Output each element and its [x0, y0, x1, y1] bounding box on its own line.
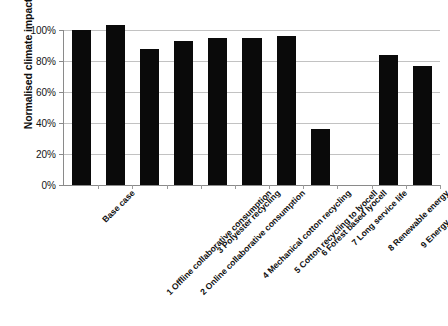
bar-slot [98, 30, 132, 185]
x-axis-tick-mark [440, 185, 441, 189]
y-axis-tick-label: 20% [36, 149, 56, 160]
y-axis-tick-label: 60% [36, 87, 56, 98]
bar-slot [406, 30, 440, 185]
bar-slot [201, 30, 235, 185]
bar-slot [167, 30, 201, 185]
bar-slot [235, 30, 269, 185]
bar-slot [303, 30, 337, 185]
bar-slot [269, 30, 303, 185]
y-axis-tick-label: 100% [30, 25, 56, 36]
bar [140, 49, 159, 185]
bars-group [64, 30, 440, 185]
bar [277, 36, 296, 185]
y-axis-tick-label: 80% [36, 56, 56, 67]
bar [174, 41, 193, 185]
bar [413, 66, 432, 185]
y-axis-title: Normalised climate impact [22, 0, 34, 154]
y-axis-tick-label: 40% [36, 118, 56, 129]
bar [208, 38, 227, 185]
plot-area: 0%20%40%60%80%100% [63, 30, 440, 186]
y-axis-tick-mark [59, 185, 64, 186]
bar [242, 38, 261, 185]
x-axis-labels-group: Base case1 Offline collaborative consump… [63, 188, 440, 323]
bar [106, 25, 125, 185]
bar-slot [64, 30, 98, 185]
bar-slot [372, 30, 406, 185]
bar-chart-figure: Normalised climate impact 0%20%40%60%80%… [0, 0, 448, 326]
bar [379, 55, 398, 185]
bar [72, 30, 91, 185]
bar [311, 129, 330, 185]
x-axis-tick-label: Base case [100, 188, 136, 224]
y-axis-tick-label: 0% [42, 180, 56, 191]
bar-slot [337, 30, 371, 185]
bar-slot [132, 30, 166, 185]
